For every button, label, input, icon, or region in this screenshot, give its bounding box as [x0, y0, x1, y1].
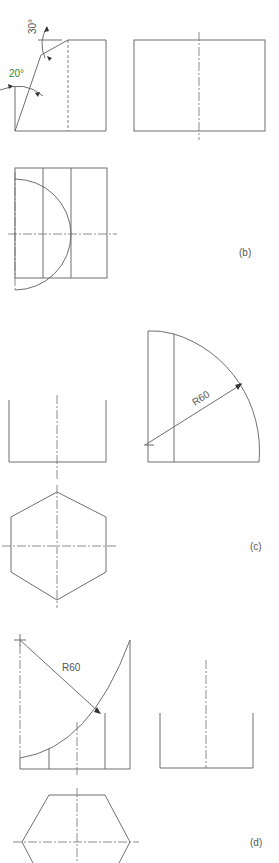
panel-d-development: R60 — [14, 634, 130, 775]
panel-b-view — [8, 168, 117, 290]
panel-c-development: R60 — [144, 331, 260, 462]
panel-d-hexagon — [13, 788, 139, 863]
panel-c-label: (c) — [250, 541, 262, 552]
angle-30-label: 30° — [27, 19, 38, 34]
angle-20-label: 20° — [9, 68, 24, 79]
technical-drawing: 30° 20° (b) R60 (c) — [0, 0, 279, 863]
panel-c-hexagon — [2, 485, 118, 608]
panel-a-side-view — [134, 32, 265, 140]
panel-c-front-view — [9, 395, 106, 480]
panel-d-label: (d) — [250, 837, 262, 848]
panel-d-side-view — [160, 660, 253, 768]
panel-b-label: (b) — [239, 247, 251, 258]
panel-a-front-view: 30° 20° — [0, 19, 106, 131]
radius-r60-label-d: R60 — [62, 662, 81, 673]
